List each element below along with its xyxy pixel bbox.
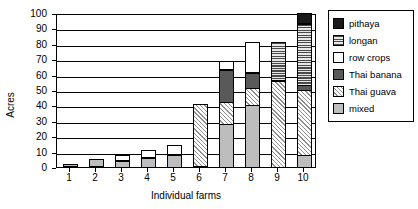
x-axis-tick-mark (173, 168, 174, 172)
legend-item: longan (333, 32, 410, 49)
legend-item: mixed (333, 100, 410, 117)
x-axis-title: Individual farms (56, 190, 316, 201)
bar (193, 13, 208, 167)
x-axis-tick: 6 (196, 172, 202, 183)
bar (63, 13, 78, 167)
legend-swatch-icon (333, 35, 344, 46)
x-axis-tick: 3 (118, 172, 124, 183)
bar-segment (141, 150, 156, 158)
bar-segment (115, 161, 130, 167)
bar-segment (167, 155, 182, 167)
plot-area (56, 14, 316, 168)
y-axis-tick: 10 (0, 148, 47, 158)
legend-label: Thai guava (349, 87, 396, 97)
legend-item: Thai guava (333, 83, 410, 100)
y-axis-tick: 30 (0, 117, 47, 127)
legend-label: longan (349, 36, 378, 46)
x-axis-tick-mark (121, 168, 122, 172)
legend-label: Thai banana (349, 70, 402, 80)
bar-segment (245, 73, 260, 88)
bar-segment (89, 159, 104, 167)
bar (89, 13, 104, 167)
bar-segment (193, 104, 208, 167)
legend-swatch-icon (333, 103, 344, 114)
x-axis-tick-mark (225, 168, 226, 172)
x-axis-tick-mark (95, 168, 96, 172)
bar-segment (141, 158, 156, 167)
x-axis-tick: 9 (274, 172, 280, 183)
bar-segment (297, 24, 312, 86)
legend-item: Thai banana (333, 66, 410, 83)
legend-item: pithaya (333, 15, 410, 32)
x-axis-tick: 4 (144, 172, 150, 183)
x-axis-tick-mark (69, 168, 70, 172)
bar-segment (219, 102, 234, 124)
bar-chart: Acres 0102030405060708090100 12345678910… (0, 0, 418, 209)
x-axis-tick: 8 (248, 172, 254, 183)
y-axis-tick: 50 (0, 86, 47, 96)
bar-segment (245, 88, 260, 105)
legend-swatch-icon (333, 69, 344, 80)
x-axis-tick: 10 (297, 172, 308, 183)
y-axis-tick: 90 (0, 24, 47, 34)
x-axis-tick: 1 (66, 172, 72, 183)
x-axis-tick: 2 (92, 172, 98, 183)
bar-segment (219, 70, 234, 102)
y-axis-tick: 40 (0, 101, 47, 111)
legend-label: mixed (349, 104, 374, 114)
y-axis-tick: 70 (0, 55, 47, 65)
bar-segment (219, 124, 234, 167)
y-axis-tick: 100 (0, 9, 47, 19)
bar-segment (297, 155, 312, 167)
bar (219, 13, 234, 167)
bar-segment (245, 42, 260, 73)
legend-label: row crops (349, 53, 390, 63)
legend: pithayalonganrow cropsThai bananaThai gu… (328, 10, 414, 122)
x-axis-tick-mark (199, 168, 200, 172)
legend-label: pithaya (349, 19, 380, 29)
y-axis-tick: 80 (0, 40, 47, 50)
x-axis-tick-mark (147, 168, 148, 172)
legend-swatch-icon (333, 18, 344, 29)
bar (141, 13, 156, 167)
y-axis-tick-mark (52, 168, 56, 169)
bar-segment (167, 145, 182, 154)
bar (167, 13, 182, 167)
x-axis-tick-mark (303, 168, 304, 172)
x-axis-tick-mark (251, 168, 252, 172)
bar-segment (63, 164, 78, 167)
x-axis-tick: 5 (170, 172, 176, 183)
x-axis-tick: 7 (222, 172, 228, 183)
bar-segment (245, 105, 260, 167)
bar (297, 13, 312, 167)
y-axis-tick: 20 (0, 132, 47, 142)
bar (115, 13, 130, 167)
y-axis-tick: 0 (0, 163, 47, 173)
legend-swatch-icon (333, 52, 344, 63)
bar-segment (271, 42, 286, 81)
bar-segment (219, 61, 234, 70)
x-axis-tick-mark (277, 168, 278, 172)
bar-segment (115, 155, 130, 161)
bar-segment (297, 85, 312, 90)
legend-swatch-icon (333, 86, 344, 97)
legend-item: row crops (333, 49, 410, 66)
bar (245, 13, 260, 167)
bar-segment (297, 90, 312, 155)
bar (271, 13, 286, 167)
bar-segment (297, 13, 312, 24)
bar-segment (271, 81, 286, 167)
y-axis-tick: 60 (0, 71, 47, 81)
